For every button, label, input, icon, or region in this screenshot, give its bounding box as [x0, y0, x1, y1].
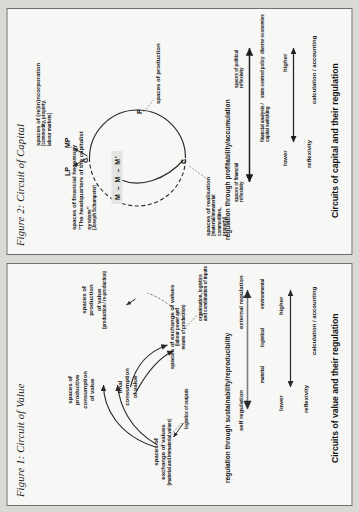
- fig2-node-reincorporation: spaces of (re)in)ncorporation [commodity…: [33, 60, 51, 146]
- fig2-node-production: spaces of production: [153, 24, 160, 104]
- fig2-bottom-title: Circuits of capital and their regulation: [329, 63, 339, 218]
- fig1-annotation-organisation-logistics: organisation, logisticsand combination o…: [197, 263, 208, 321]
- fig1-node-exchange-values-material: spaces of exchange of values (material a…: [151, 409, 171, 495]
- fig2-node-realisation-label: spaces of realisation: [203, 177, 210, 236]
- fig1-scale-item-logistical: logistical: [259, 328, 264, 347]
- fig1-scale-axis-label: reflexivity: [302, 385, 308, 413]
- fig1-node-production-of-value: spaces ofproductionof value (production …: [79, 267, 107, 333]
- fig1-node-exchange-values-material-line2: exchange of values: [158, 424, 165, 479]
- fig1-scale-high: higher: [277, 297, 283, 315]
- fig2-scale-axis-label: reflexivity: [305, 140, 311, 168]
- fig2-node-financial-hegemony-quote: "The headquarters of the capitalist syst…: [76, 131, 90, 230]
- fig1-annotation-logistics-outputs: logistics of outputs: [183, 369, 188, 429]
- fig1-regulation-right-end: external regulation: [237, 275, 243, 329]
- fig1-scale-low: lower: [277, 395, 283, 411]
- fig2-regulation-header: regulation through profitability/accumul…: [223, 99, 230, 240]
- fig2-scale-low: lower: [281, 150, 287, 166]
- fig1-node-exchange-values-material-line1: spaces of: [151, 438, 158, 466]
- fig2-regulation-left-end: spaces of financialreflexivity: [233, 138, 244, 202]
- fig2-scale-item-diverse-economies: diverse economies: [259, 8, 264, 54]
- fig2-regulation-right-end: spaces of politicalreflexivity: [233, 24, 244, 88]
- fig2-node-financial-hegemony: spaces of financial hegemony "The headqu…: [69, 120, 97, 230]
- fig1-node-production-of-value-sub: (production / re-production): [101, 267, 106, 333]
- fig1-node-exchange-values-labour: spaces of exchange of values (labour pow…: [167, 279, 185, 375]
- fig2-letter-p: P: [135, 109, 142, 114]
- fig1-regulation-left-end: self regulation: [237, 390, 243, 431]
- fig2-scale-item-financial-analysis: financial analysis /capital switching: [259, 92, 270, 142]
- fig1-scale-outcome: calculation / accounting: [310, 287, 316, 355]
- fig1-node-exchange-values-material-sub: (material and immaterial values): [166, 409, 171, 495]
- fig2-node-reincorporation-sub: [commodity, property,labour markets]: [40, 60, 51, 146]
- scanned-page: Figure 1: Circuit of Value: [0, 0, 359, 512]
- fig2-letter-c-bottom: C: [179, 159, 186, 164]
- fig1-scale-item-environmental: environmental: [259, 279, 264, 309]
- fig1-bottom-title: Circuits of value and their regulation: [329, 314, 339, 463]
- fig2-money-box: M – M – M': [111, 151, 122, 204]
- fig1-scale-item-material: material: [259, 366, 264, 383]
- fig2-scale-high: higher: [281, 54, 287, 72]
- figure-2-circuit: [7, 8, 352, 254]
- fig2-node-financial-hegemony-label: spaces of financial hegemony: [69, 145, 76, 230]
- fig1-regulation-header: regulation through sustainability/reprod…: [223, 333, 230, 483]
- fig2-node-financial-hegemony-attrib: (Joseph Schumpeter): [91, 120, 96, 230]
- figure-2-panel: Figure 2: Circuit of Capital: [6, 8, 352, 255]
- figure-1-panel: Figure 1: Circuit of Value: [6, 263, 352, 506]
- fig1-node-productive-consumption: spaces ofproductiveconsumptionof value: [65, 361, 95, 419]
- fig1-node-final-consumption: finalconsumptionof value: [115, 361, 137, 413]
- fig1-node-exchange-values-labour-sub: (labour power andmeans of production): [174, 279, 185, 375]
- rotated-page-canvas: Figure 1: Circuit of Value: [0, 0, 359, 512]
- fig2-scale-outcome: calculation / accounting: [310, 36, 316, 104]
- fig2-node-reincorporation-label: spaces of (re)in)ncorporation: [33, 63, 40, 146]
